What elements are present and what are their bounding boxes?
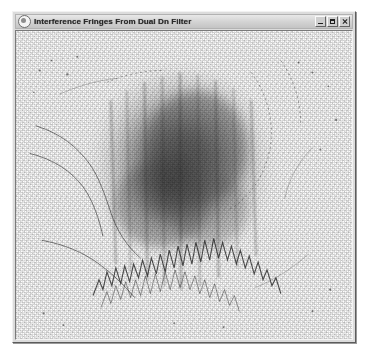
fringe-canvas xyxy=(16,31,352,339)
window-controls xyxy=(315,16,350,27)
window-menu-icon[interactable] xyxy=(18,15,31,28)
maximize-button[interactable] xyxy=(327,16,338,27)
client-area xyxy=(15,30,353,340)
interference-fringe-image xyxy=(16,31,352,339)
title-bar[interactable]: Interference Fringes From Dual Dn Filter xyxy=(15,14,353,29)
window-title: Interference Fringes From Dual Dn Filter xyxy=(34,16,315,28)
minimize-button[interactable] xyxy=(315,16,326,27)
application-window[interactable]: Interference Fringes From Dual Dn Filter xyxy=(12,11,356,343)
close-icon[interactable] xyxy=(339,16,350,27)
